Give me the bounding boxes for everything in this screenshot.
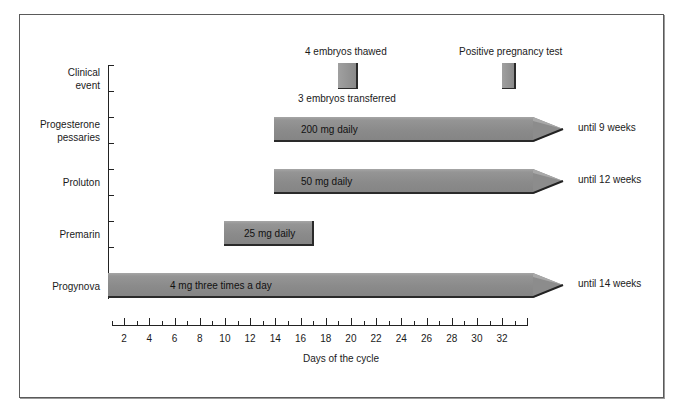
- until-label-proluton: until 12 weeks: [578, 174, 641, 185]
- arrow-head-icon: [533, 117, 565, 142]
- event-label-embryos-transferred: 3 embryos transferred: [298, 93, 396, 104]
- x-tick-label: 2: [121, 333, 127, 344]
- x-tick-label: 14: [270, 333, 281, 344]
- row-label-line: Premarin: [59, 228, 100, 241]
- x-tick: [301, 318, 302, 325]
- x-tick: [175, 318, 176, 325]
- bar-progesterone-pessaries: 200 mg daily: [274, 117, 534, 142]
- x-tick: [212, 321, 213, 325]
- x-tick-label: 26: [421, 333, 432, 344]
- x-tick-label: 22: [371, 333, 382, 344]
- x-tick: [326, 318, 327, 325]
- x-tick-label: 18: [320, 333, 331, 344]
- until-label-progynova: until 14 weeks: [578, 278, 641, 289]
- row-label-line: pessaries: [40, 131, 100, 144]
- row-label-line: Clinical: [68, 66, 100, 79]
- x-tick: [250, 318, 251, 325]
- y-tick: [108, 65, 114, 66]
- y-tick: [108, 143, 114, 144]
- x-tick: [313, 321, 314, 325]
- x-tick: [389, 321, 390, 325]
- x-tick: [515, 321, 516, 325]
- row-label-premarin: Premarin: [59, 228, 100, 241]
- bar-dose-label: 200 mg daily: [301, 123, 358, 134]
- arrow-head-icon: [533, 273, 565, 298]
- event-label-embryos-thawed: 4 embryos thawed: [305, 46, 387, 57]
- x-tick: [225, 318, 226, 325]
- x-tick: [112, 321, 113, 325]
- x-tick-label: 16: [295, 333, 306, 344]
- x-tick-label: 20: [345, 333, 356, 344]
- x-tick: [137, 321, 138, 325]
- row-label-proluton: Proluton: [63, 176, 100, 189]
- y-tick: [108, 169, 114, 170]
- x-tick: [464, 321, 465, 325]
- x-tick-label: 24: [396, 333, 407, 344]
- row-label-line: event: [68, 79, 100, 92]
- x-axis-title: Days of the cycle: [303, 353, 379, 364]
- x-tick: [414, 321, 415, 325]
- x-tick: [162, 321, 163, 325]
- event-label-pregnancy-test: Positive pregnancy test: [459, 46, 562, 57]
- x-tick: [200, 318, 201, 325]
- row-label-progynova: Progynova: [52, 280, 100, 293]
- y-tick: [108, 117, 114, 118]
- x-tick: [263, 321, 264, 325]
- y-tick: [108, 195, 114, 196]
- x-tick-label: 4: [147, 333, 153, 344]
- x-tick: [238, 321, 239, 325]
- bar-dose-label: 25 mg daily: [244, 227, 295, 238]
- row-label-line: Progynova: [52, 280, 100, 293]
- x-tick: [401, 318, 402, 325]
- row-label-line: Proluton: [63, 176, 100, 189]
- x-tick-label: 32: [497, 333, 508, 344]
- bar-dose-label: 50 mg daily: [301, 175, 352, 186]
- event-marker-embryo-transfer: [338, 63, 358, 89]
- row-label-line: Progesterone: [40, 118, 100, 131]
- x-tick-label: 6: [172, 333, 178, 344]
- x-tick: [527, 318, 528, 325]
- x-tick: [288, 321, 289, 325]
- bar-proluton: 50 mg daily: [274, 169, 534, 194]
- x-tick: [149, 318, 150, 325]
- x-tick-label: 28: [446, 333, 457, 344]
- row-label-clinical-event: Clinical event: [68, 66, 100, 92]
- y-tick: [108, 221, 114, 222]
- x-tick-label: 10: [219, 333, 230, 344]
- row-label-progesterone-pessaries: Progesterone pessaries: [40, 118, 100, 144]
- x-tick: [452, 318, 453, 325]
- x-tick-label: 8: [197, 333, 203, 344]
- x-tick: [502, 318, 503, 325]
- x-tick: [364, 321, 365, 325]
- x-tick: [351, 318, 352, 325]
- bar-progynova: 4 mg three times a day: [108, 273, 534, 298]
- x-tick: [439, 321, 440, 325]
- y-tick: [108, 247, 114, 248]
- y-tick: [108, 91, 114, 92]
- x-tick: [490, 321, 491, 325]
- x-tick-label: 12: [245, 333, 256, 344]
- x-tick: [477, 318, 478, 325]
- x-tick: [124, 318, 125, 325]
- x-tick: [338, 321, 339, 325]
- until-label-progesterone: until 9 weeks: [578, 122, 636, 133]
- x-tick-label: 30: [471, 333, 482, 344]
- bar-dose-label: 4 mg three times a day: [170, 279, 272, 290]
- x-tick: [275, 318, 276, 325]
- y-axis-line: [108, 65, 109, 299]
- x-tick: [427, 318, 428, 325]
- x-axis-line: [112, 325, 528, 326]
- event-marker-pregnancy-test: [502, 63, 516, 89]
- x-tick: [376, 318, 377, 325]
- x-tick: [187, 321, 188, 325]
- bar-premarin: 25 mg daily: [224, 221, 314, 246]
- arrow-head-icon: [533, 169, 565, 194]
